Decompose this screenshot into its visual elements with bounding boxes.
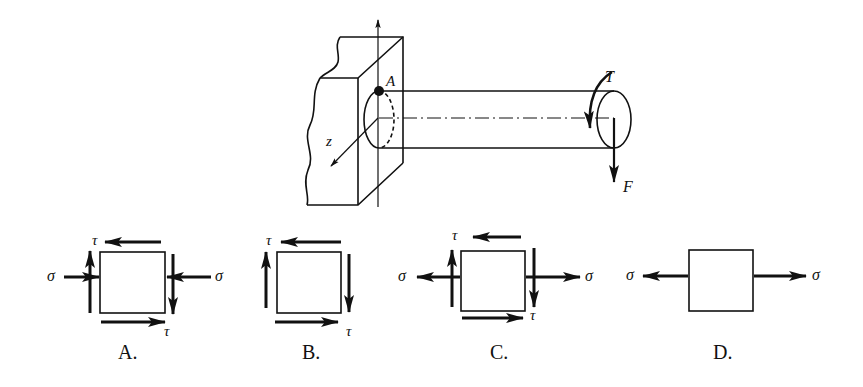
point-a-marker bbox=[374, 86, 384, 96]
element-square bbox=[689, 250, 753, 311]
option-a-stress-element[interactable]: τ τ σ σ A. bbox=[47, 232, 224, 363]
z-axis bbox=[331, 118, 378, 166]
cantilever-shaft-figure bbox=[306, 20, 631, 207]
sigma-label: σ bbox=[812, 266, 821, 283]
sigma-label: σ bbox=[626, 266, 635, 283]
tau-label: τ bbox=[266, 232, 272, 248]
option-a-label: A. bbox=[118, 341, 137, 363]
sigma-label: σ bbox=[585, 267, 594, 284]
point-a-label: A bbox=[385, 73, 396, 89]
element-square bbox=[277, 252, 341, 313]
z-axis-label: z bbox=[325, 133, 332, 149]
option-b-stress-element[interactable]: τ τ B. bbox=[266, 232, 352, 363]
sigma-label: σ bbox=[215, 267, 224, 284]
sigma-label: σ bbox=[398, 267, 407, 284]
torque-label: T bbox=[605, 68, 615, 85]
force-label: F bbox=[622, 178, 633, 195]
option-d-stress-element[interactable]: σ σ D. bbox=[626, 250, 821, 363]
option-b-label: B. bbox=[302, 341, 320, 363]
tau-label: τ bbox=[452, 227, 458, 243]
option-c-stress-element[interactable]: τ τ σ σ C. bbox=[398, 227, 594, 363]
option-c-label: C. bbox=[490, 341, 508, 363]
sigma-label: σ bbox=[47, 267, 56, 284]
element-square bbox=[461, 251, 525, 311]
tau-label: τ bbox=[530, 307, 536, 323]
tau-label: τ bbox=[346, 323, 352, 339]
tau-label: τ bbox=[164, 323, 170, 339]
option-d-label: D. bbox=[713, 341, 732, 363]
diagram-canvas: A z T F τ τ σ σ A. bbox=[0, 0, 863, 387]
fixed-wall bbox=[306, 37, 403, 205]
element-square bbox=[100, 252, 165, 313]
tau-label: τ bbox=[92, 232, 98, 248]
